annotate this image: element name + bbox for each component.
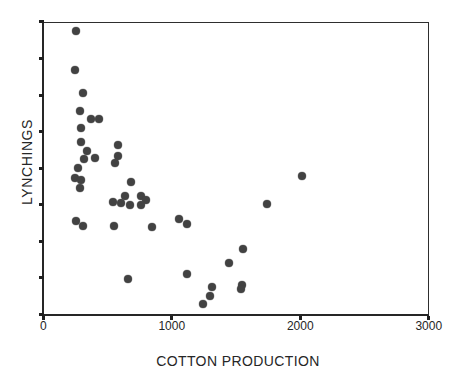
y-axis-tick (39, 94, 44, 97)
x-tick-label: 2000 (287, 319, 314, 333)
data-point (124, 275, 132, 283)
data-point (79, 89, 87, 97)
y-axis-tick (39, 57, 44, 60)
data-point (208, 283, 216, 291)
y-axis-tick (39, 20, 44, 23)
x-tick-label: 3000 (415, 319, 442, 333)
y-axis-tick (39, 130, 44, 133)
data-point (111, 159, 119, 167)
data-point (77, 138, 85, 146)
y-axis-tick (39, 203, 44, 206)
y-axis-tick (39, 276, 44, 279)
data-point (183, 220, 191, 228)
data-point (74, 164, 82, 172)
y-axis-tick (39, 313, 44, 316)
data-point (110, 222, 118, 230)
x-tick-label: 1000 (158, 319, 185, 333)
data-point (76, 184, 84, 192)
data-point (79, 222, 87, 230)
data-point (114, 141, 122, 149)
data-point (127, 178, 135, 186)
data-point (148, 223, 156, 231)
data-point (126, 201, 134, 209)
y-axis-label: LYNCHINGS (19, 119, 35, 205)
data-point (72, 27, 80, 35)
y-axis-tick (39, 167, 44, 170)
y-axis-tick (39, 240, 44, 243)
data-point (77, 124, 85, 132)
plot-area (42, 22, 429, 316)
x-tick-label: 0 (40, 319, 47, 333)
data-point (83, 147, 91, 155)
scatter-plot-figure: LYNCHINGS 0100020003000 COTTON PRODUCTIO… (0, 0, 461, 381)
data-point (80, 155, 88, 163)
x-axis-label: COTTON PRODUCTION (156, 353, 320, 369)
data-point (137, 201, 145, 209)
data-point (263, 200, 271, 208)
data-point (76, 107, 84, 115)
